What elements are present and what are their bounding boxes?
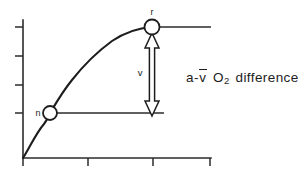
figure-canvas: n r v [0, 0, 304, 174]
annotation-overline-v: v [199, 70, 207, 85]
point-label-r: r [151, 7, 154, 17]
arrow-label-v: v [138, 67, 143, 78]
y-axis-ticks [15, 27, 23, 113]
point-marker-n [43, 106, 57, 120]
point-marker-r [145, 20, 160, 35]
annotation-prefix: a- [186, 70, 199, 85]
av-o2-difference-annotation: a-vO2difference [186, 70, 299, 86]
annotation-gas-symbol: O [213, 70, 224, 85]
av-difference-arrow [145, 33, 159, 116]
annotation-gas-subscript: 2 [224, 75, 230, 86]
response-curve [23, 27, 152, 158]
annotation-suffix: difference [236, 70, 299, 85]
point-label-n: n [35, 108, 40, 118]
figure-container: n r v a-vO2difference [0, 0, 304, 174]
x-axis-ticks [23, 158, 210, 166]
